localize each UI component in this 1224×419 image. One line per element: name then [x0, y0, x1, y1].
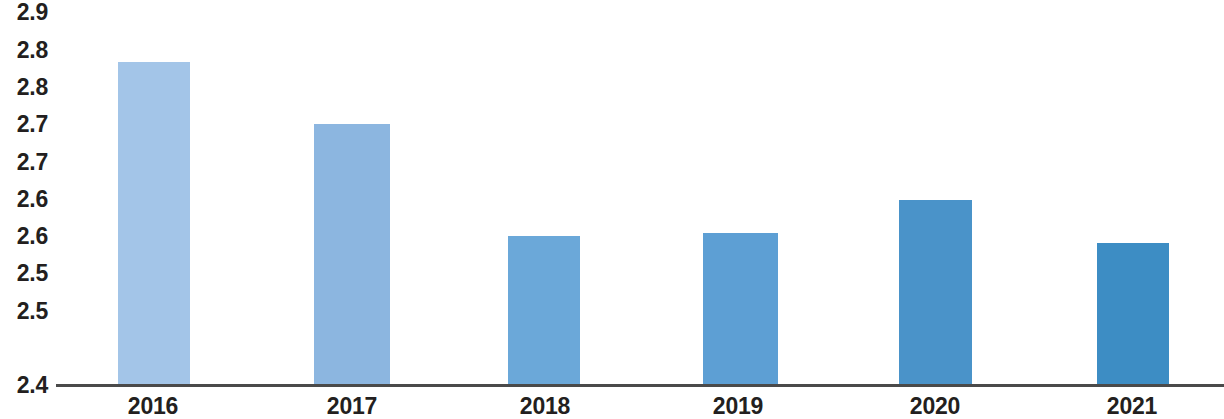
bar-2021[interactable] — [1097, 243, 1169, 386]
x-tick-label: 2018 — [520, 393, 570, 419]
bar-2017[interactable] — [314, 124, 390, 386]
bar-2019[interactable] — [703, 233, 778, 386]
bar-2020[interactable] — [899, 200, 972, 386]
x-tick-label: 2016 — [128, 393, 178, 419]
x-tick-label: 2021 — [1107, 393, 1157, 419]
bar-2016[interactable] — [118, 62, 190, 386]
x-tick-label: 2019 — [713, 393, 763, 419]
x-tick-label: 2017 — [327, 393, 377, 419]
bar-2018[interactable] — [508, 236, 580, 386]
x-tick-label: 2020 — [910, 393, 960, 419]
x-axis: 201620172018201920202021 — [0, 387, 1224, 419]
bar-chart: 2.92.82.82.72.72.62.62.52.52.4 201620172… — [0, 0, 1224, 419]
plot-area — [0, 0, 1224, 386]
